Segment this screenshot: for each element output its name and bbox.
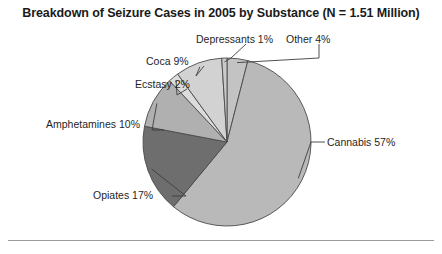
pie-label-coca: Coca 9% — [146, 56, 189, 67]
pie-label-opiates: Opiates 17% — [93, 190, 153, 201]
leader-line-other — [237, 44, 319, 63]
pie-label-cannabis: Cannabis 57% — [327, 137, 395, 148]
pie-chart-figure: Breakdown of Seizure Cases in 2005 by Su… — [0, 0, 442, 254]
pie-label-amphetamines: Amphetamines 10% — [46, 119, 140, 130]
pie-label-ecstasy: Ecstasy 2% — [135, 79, 190, 90]
footer-divider — [8, 240, 434, 241]
pie-label-other: Other 4% — [286, 34, 330, 45]
pie-label-depressants: Depressants 1% — [196, 34, 273, 45]
